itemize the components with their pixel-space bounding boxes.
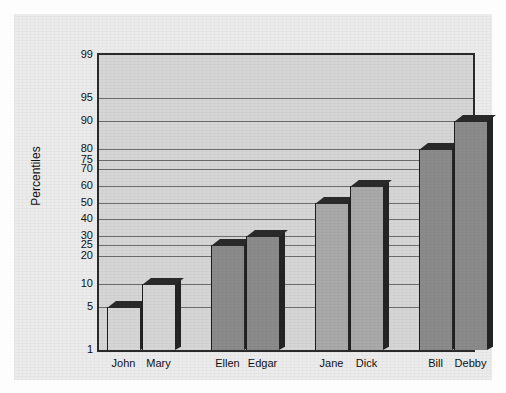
chart-figure: Percentiles 1510202530405060707580909599… [0,0,506,393]
plot-area [97,53,475,352]
y-axis-tick-label: 60 [81,180,93,191]
x-axis-tick-label: Bill [428,357,443,369]
y-axis-tick-labels: 1510202530405060707580909599 [52,53,93,352]
bar [107,307,140,350]
x-axis-tick-label: Debby [455,357,487,369]
y-axis-tick-label: 10 [81,278,93,289]
bar [315,203,348,351]
bar-front-face [419,149,452,350]
bar-series [99,55,473,350]
y-axis-tick-label: 50 [81,197,93,208]
y-axis-tick-label: 80 [81,143,93,154]
y-axis-tick-label: 99 [81,49,93,60]
bar [142,284,175,350]
bar-front-face [350,186,383,350]
bar-front-face [315,203,348,351]
y-axis-tick-label: 70 [81,163,93,174]
y-axis-tick-label: 95 [81,92,93,103]
y-axis-tick-label: 25 [81,239,93,250]
bar [454,121,487,350]
y-axis-title: Percentiles [29,126,43,226]
x-axis-tick-labels: JohnMaryEllenEdgarJaneDickBillDebby [97,357,475,373]
x-axis-tick-label: Dick [356,357,377,369]
x-axis-tick-label: Edgar [248,357,277,369]
bar-front-face [142,284,175,350]
bar [246,236,279,350]
bar-side-face [175,278,181,350]
x-axis-tick-label: Jane [320,357,344,369]
y-axis-tick-label: 90 [81,115,93,126]
bar-side-face [383,180,389,350]
y-axis-tick-label: 75 [81,154,93,165]
y-axis-tick-label: 20 [81,250,93,261]
chart-paper-background: Percentiles 1510202530405060707580909599… [14,14,492,380]
x-axis-tick-label: Ellen [215,357,239,369]
y-axis-tick-label: 30 [81,230,93,241]
bar [211,245,244,350]
bar [419,149,452,350]
y-axis-tick-label: 5 [87,301,93,312]
y-axis-tick-label: 1 [87,344,93,355]
bar-front-face [454,121,487,350]
y-axis-tick-label: 40 [81,213,93,224]
bar-front-face [211,245,244,350]
bar-side-face [487,115,493,350]
bar-side-face [279,229,285,349]
bar-front-face [246,236,279,350]
x-axis-tick-label: Mary [146,357,170,369]
bar [350,186,383,350]
bar-front-face [107,307,140,350]
x-axis-tick-label: John [112,357,136,369]
